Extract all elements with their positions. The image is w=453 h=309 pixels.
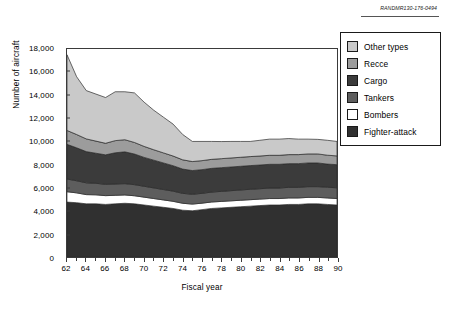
rand-credit-line: RANDMR130-176-0494: [380, 5, 437, 11]
legend-item-label: Tankers: [364, 93, 394, 103]
y-axis-tick-label: 2,000: [0, 230, 54, 239]
x-axis-tick-label: 74: [178, 264, 187, 273]
legend-item-label: Recce: [364, 59, 388, 69]
y-axis-tick-labels: 02,0004,0006,0008,00010,00012,00014,0001…: [0, 48, 62, 258]
x-axis-tick-label: 68: [120, 264, 129, 273]
x-axis-tick-label: 66: [100, 264, 109, 273]
x-axis-minor-tick-mark: [173, 258, 174, 261]
legend-item-label: Fighter-attack: [364, 127, 417, 137]
legend-swatch-icon: [347, 58, 358, 69]
x-axis-tick-mark: [280, 258, 281, 262]
x-axis-tick-label: 70: [139, 264, 148, 273]
y-axis-tick-mark: [66, 71, 70, 72]
x-axis-minor-tick-mark: [134, 258, 135, 261]
x-axis-tick-label: 84: [275, 264, 284, 273]
legend-swatch-icon: [347, 92, 358, 103]
y-axis-tick-label: 16,000: [0, 67, 54, 76]
legend-item-fighter-attack[interactable]: Fighter-attack: [347, 123, 435, 140]
y-axis-tick-mark: [66, 164, 70, 165]
legend-item-recce[interactable]: Recce: [347, 55, 435, 72]
x-axis-minor-tick-mark: [328, 258, 329, 261]
x-axis-tick-label: 62: [61, 264, 70, 273]
x-axis-tick-mark: [221, 258, 222, 262]
y-axis-tick-label: 14,000: [0, 90, 54, 99]
x-axis-minor-tick-mark: [76, 258, 77, 261]
x-axis-tick-mark: [319, 258, 320, 262]
x-axis-tick-mark: [163, 258, 164, 262]
x-axis-tick-label: 90: [333, 264, 342, 273]
credit-rule-divider: [361, 16, 439, 17]
y-axis-tick-label: 0: [0, 254, 54, 263]
y-axis-tick-label: 6,000: [0, 184, 54, 193]
x-axis-minor-tick-mark: [270, 258, 271, 261]
x-axis-minor-tick-mark: [192, 258, 193, 261]
x-axis-tick-label: 78: [217, 264, 226, 273]
legend-swatch-icon: [347, 126, 358, 137]
legend-item-tankers[interactable]: Tankers: [347, 89, 435, 106]
x-axis-tick-label: 72: [159, 264, 168, 273]
legend-swatch-icon: [347, 41, 358, 52]
y-axis-tick-mark: [66, 118, 70, 119]
x-axis-minor-tick-mark: [309, 258, 310, 261]
y-axis-tick-label: 8,000: [0, 160, 54, 169]
x-axis-tick-mark: [260, 258, 261, 262]
y-axis-tick-label: 10,000: [0, 137, 54, 146]
stacked-area-chart: [67, 49, 337, 257]
x-axis-tick-mark: [338, 258, 339, 262]
x-axis-tick-mark: [202, 258, 203, 262]
legend-swatch-icon: [347, 109, 358, 120]
legend-item-label: Cargo: [364, 76, 387, 86]
x-axis-tick-label: 82: [256, 264, 265, 273]
x-axis-tick-mark: [66, 258, 67, 262]
legend-item-label: Other types: [364, 42, 408, 52]
x-axis-tick-mark: [241, 258, 242, 262]
x-axis-tick-mark: [105, 258, 106, 262]
y-axis-tick-mark: [66, 234, 70, 235]
figure-container: RANDMR130-176-0494 02,0004,0006,0008,000…: [0, 0, 453, 309]
y-axis-tick-mark: [66, 188, 70, 189]
legend-item-bombers[interactable]: Bombers: [347, 106, 435, 123]
x-axis-tick-label: 80: [236, 264, 245, 273]
y-axis-tick-mark: [66, 211, 70, 212]
legend-item-label: Bombers: [364, 110, 398, 120]
x-axis-minor-tick-mark: [95, 258, 96, 261]
x-axis-tick-labels: 626466687072747678808284868890: [66, 258, 338, 284]
x-axis-tick-mark: [124, 258, 125, 262]
x-axis-title: Fiscal year: [66, 283, 338, 292]
chart-legend: Other typesRecceCargoTankersBombersFight…: [340, 32, 441, 146]
area-series-fighter-attack: [67, 202, 337, 257]
x-axis-tick-label: 76: [197, 264, 206, 273]
legend-item-other-types[interactable]: Other types: [347, 38, 435, 55]
x-axis-tick-label: 64: [81, 264, 90, 273]
plot-area: [66, 48, 338, 258]
x-axis-minor-tick-mark: [153, 258, 154, 261]
y-axis-tick-label: 12,000: [0, 114, 54, 123]
x-axis-minor-tick-mark: [289, 258, 290, 261]
x-axis-minor-tick-mark: [115, 258, 116, 261]
legend-swatch-icon: [347, 75, 358, 86]
y-axis-tick-mark: [66, 94, 70, 95]
x-axis-minor-tick-mark: [212, 258, 213, 261]
x-axis-tick-mark: [144, 258, 145, 262]
x-axis-tick-mark: [299, 258, 300, 262]
y-axis-tick-mark: [66, 141, 70, 142]
y-axis-title: Number of aircraft: [12, 15, 21, 135]
x-axis-tick-mark: [85, 258, 86, 262]
legend-item-cargo[interactable]: Cargo: [347, 72, 435, 89]
y-axis-tick-label: 18,000: [0, 44, 54, 53]
x-axis-minor-tick-mark: [251, 258, 252, 261]
x-axis-minor-tick-mark: [231, 258, 232, 261]
x-axis-tick-mark: [183, 258, 184, 262]
x-axis-tick-label: 86: [295, 264, 304, 273]
y-axis-tick-label: 4,000: [0, 207, 54, 216]
x-axis-tick-label: 88: [314, 264, 323, 273]
